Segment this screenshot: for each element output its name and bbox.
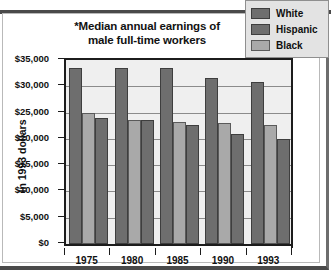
y-axis-tick-label: $35,000 (0, 53, 49, 64)
y-axis-tick-label: $0 (0, 237, 49, 248)
x-axis-tick-label-1990: 1990 (212, 255, 234, 266)
x-axis-tick-label-1985: 1985 (166, 255, 188, 266)
y-axis-tick-label: $30,000 (0, 79, 49, 90)
x-axis-tick-label-1975: 1975 (76, 255, 98, 266)
bar-black-1980 (141, 120, 154, 244)
bar-hispanic-1985 (173, 122, 186, 244)
y-axis-tick (58, 84, 64, 85)
bar-white-1980 (115, 68, 128, 244)
bar-hispanic-1980 (128, 120, 141, 244)
x-axis-tick (64, 248, 65, 255)
y-axis-tick-label: $25,000 (0, 105, 49, 116)
chart-screenshot: *Median annual earnings of male full-tim… (0, 0, 331, 273)
plot-area (64, 58, 293, 246)
bar-hispanic-1990 (218, 123, 231, 244)
x-axis-tick (200, 248, 201, 255)
y-axis-tick (58, 216, 64, 217)
chart-title: *Median annual earnings of male full-tim… (52, 19, 242, 47)
x-axis-tick-label-1993: 1993 (257, 255, 279, 266)
legend-swatch-black-icon (251, 40, 270, 51)
chart-legend: White Hispanic Black (245, 0, 329, 58)
y-axis-tick (58, 242, 64, 243)
bar-black-1990 (231, 134, 244, 244)
x-axis-tick (155, 248, 156, 255)
y-axis-tick (58, 163, 64, 164)
legend-item-hispanic: Hispanic (251, 21, 324, 37)
y-axis-tick (58, 189, 64, 190)
y-axis-tick-label: $15,000 (0, 158, 49, 169)
chart-title-line-2: male full-time workers (52, 33, 242, 47)
legend-item-white: White (251, 5, 324, 21)
bar-black-1993 (277, 139, 290, 244)
plot-right-edge (291, 58, 293, 248)
legend-swatch-white-icon (251, 8, 270, 19)
bar-black-1975 (95, 118, 108, 244)
y-axis-tick-label: $10,000 (0, 184, 49, 195)
x-axis-tick (291, 248, 292, 255)
bar-white-1985 (160, 68, 173, 244)
y-axis-tick (58, 58, 64, 59)
x-axis-tick-label-1980: 1980 (121, 255, 143, 266)
chart-title-line-1: *Median annual earnings of (52, 19, 242, 33)
y-axis-tick (58, 111, 64, 112)
bar-black-1985 (186, 125, 199, 244)
y-axis-tick-label: $5,000 (0, 210, 49, 221)
legend-swatch-hispanic-icon (251, 24, 270, 35)
bars-layer (66, 60, 293, 244)
bar-white-1975 (69, 68, 82, 244)
x-axis-tick (246, 248, 247, 255)
legend-item-black: Black (251, 37, 324, 53)
y-axis-tick (58, 137, 64, 138)
x-axis-tick (109, 248, 110, 255)
legend-label-hispanic: Hispanic (276, 24, 318, 35)
y-axis-tick-label: $20,000 (0, 131, 49, 142)
bar-white-1990 (205, 78, 218, 244)
bar-hispanic-1975 (82, 113, 95, 244)
bar-hispanic-1993 (264, 125, 277, 244)
legend-label-black: Black (276, 40, 303, 51)
bar-white-1993 (251, 82, 264, 244)
legend-label-white: White (276, 8, 303, 19)
